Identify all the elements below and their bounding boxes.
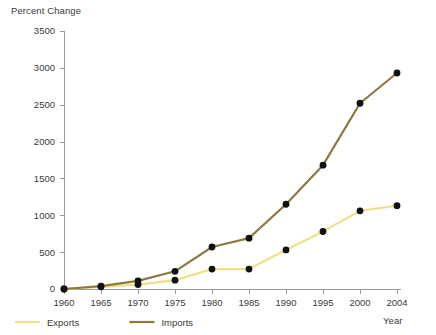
data-point-exports-1990 [283, 247, 290, 254]
data-point-exports-2000 [357, 207, 364, 214]
data-point-imports-1975 [172, 268, 179, 275]
x-tick-label: 1960 [53, 297, 74, 308]
y-tick-label: 3000 [34, 62, 55, 73]
data-point-exports-1975 [172, 277, 179, 284]
y-tick-label: 2000 [34, 136, 55, 147]
data-series-group [64, 73, 397, 289]
data-point-imports-2000 [357, 100, 364, 107]
chart-legend: ExportsImports [15, 317, 193, 328]
data-point-exports-1995 [320, 228, 327, 235]
y-tick-label: 1000 [34, 210, 55, 221]
chart-container: Percent Change Year 05001000150020002500… [0, 0, 436, 335]
data-point-imports-2004 [394, 70, 401, 77]
y-tick-label-group: 0500100015002000250030003500 [34, 25, 55, 294]
data-point-imports-1990 [283, 201, 290, 208]
legend-label-imports: Imports [161, 317, 193, 328]
series-line-exports [64, 206, 397, 289]
y-tick-label: 3500 [34, 25, 55, 36]
x-tick-label-group: 1960196519701975198019851990199520002004 [53, 297, 407, 308]
data-point-imports-1985 [246, 235, 253, 242]
x-tick-label: 1965 [90, 297, 111, 308]
x-tick-label: 2004 [386, 297, 407, 308]
legend-label-exports: Exports [47, 317, 79, 328]
data-point-imports-1960 [61, 286, 68, 293]
x-tick-label: 2000 [349, 297, 370, 308]
data-point-exports-2004 [394, 202, 401, 209]
x-tick-label: 1985 [238, 297, 259, 308]
data-point-exports-1980 [209, 266, 216, 273]
y-tick-mark-group [60, 32, 64, 253]
x-tick-label: 1970 [127, 297, 148, 308]
data-point-imports-1980 [209, 244, 216, 251]
data-marker-group [61, 70, 401, 293]
y-tick-label: 1500 [34, 173, 55, 184]
data-point-imports-1965 [98, 283, 105, 290]
x-tick-label: 1990 [275, 297, 296, 308]
x-tick-label: 1975 [164, 297, 185, 308]
x-tick-label: 1995 [312, 297, 333, 308]
x-tick-label: 1980 [201, 297, 222, 308]
data-point-imports-1995 [320, 162, 327, 169]
y-tick-label: 0 [50, 283, 55, 294]
data-point-imports-1970 [135, 277, 142, 284]
y-tick-label: 2500 [34, 99, 55, 110]
y-tick-label: 500 [39, 247, 55, 258]
data-point-exports-1985 [246, 266, 253, 273]
series-line-imports [64, 73, 397, 289]
chart-plot-area: 0500100015002000250030003500 19601965197… [0, 0, 436, 335]
